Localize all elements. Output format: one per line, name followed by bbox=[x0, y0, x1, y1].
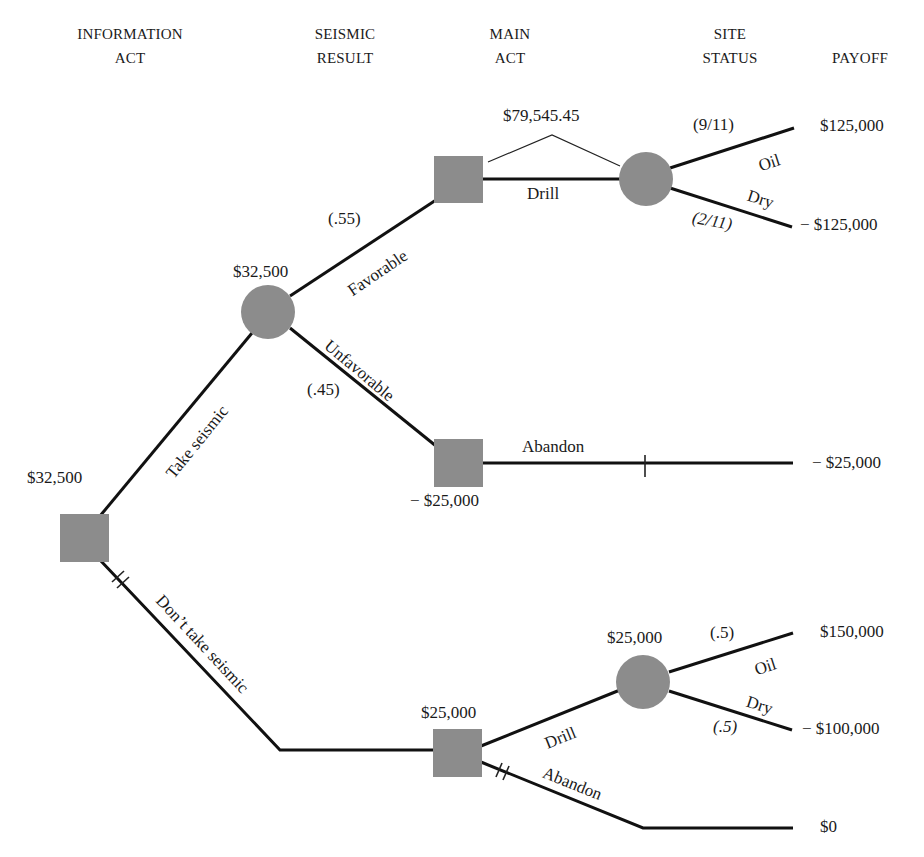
decision-node-favorable bbox=[434, 156, 483, 203]
no-seismic-decision-value: $25,000 bbox=[421, 703, 476, 723]
favorable-decision-value: $79,545.45 bbox=[503, 106, 580, 126]
branch-label-abandon-unfavorable: Abandon bbox=[522, 437, 584, 457]
root-value: $32,500 bbox=[27, 468, 82, 488]
unfavorable-decision-value: − $25,000 bbox=[410, 491, 479, 511]
prob-oil-upper: (9/11) bbox=[693, 115, 734, 135]
edge-take-seismic bbox=[100, 333, 252, 516]
payoff-dry-upper: − $125,000 bbox=[800, 215, 878, 235]
payoff-oil-lower: $150,000 bbox=[820, 622, 884, 642]
branch-label-drill-favorable: Drill bbox=[527, 184, 559, 204]
decision-tree bbox=[0, 0, 924, 857]
payoff-abandon-lower: $0 bbox=[820, 817, 837, 837]
chance-node-site-no-seismic bbox=[616, 655, 670, 709]
prob-oil-lower: (.5) bbox=[710, 623, 734, 643]
prob-dry-lower: (.5) bbox=[713, 717, 737, 737]
decision-node-no-seismic bbox=[433, 729, 482, 777]
decision-node-unfavorable bbox=[434, 439, 483, 487]
value-bracket bbox=[488, 135, 620, 166]
edge-dont-take-seismic bbox=[100, 560, 435, 750]
prob-favorable: (.55) bbox=[328, 209, 361, 229]
chance-node-site-favorable bbox=[619, 152, 673, 206]
prob-unfavorable: (.45) bbox=[307, 380, 340, 400]
chance-node-seismic bbox=[241, 285, 295, 339]
payoff-dry-lower: − $100,000 bbox=[802, 719, 880, 739]
payoff-oil-upper: $125,000 bbox=[820, 116, 884, 136]
site-chance-value-lower: $25,000 bbox=[607, 628, 662, 648]
seismic-chance-value: $32,500 bbox=[233, 262, 288, 282]
edge-abandon-lower bbox=[481, 762, 793, 828]
decision-node-root bbox=[60, 514, 109, 562]
payoff-abandon-unfavorable: − $25,000 bbox=[812, 453, 881, 473]
